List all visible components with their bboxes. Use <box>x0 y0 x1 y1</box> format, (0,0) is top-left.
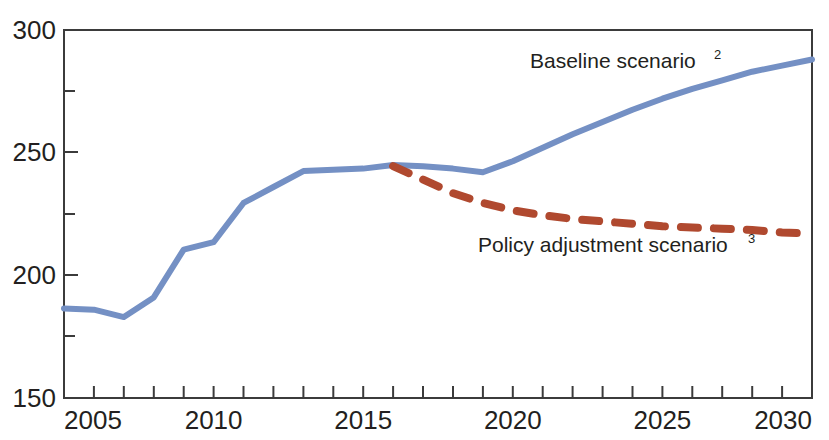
y-tick-label-300: 300 <box>13 15 56 45</box>
annotation-baseline: Baseline scenario 2 <box>530 47 721 72</box>
policy-label-text: Policy adjustment scenario <box>478 233 728 256</box>
baseline-label-text: Baseline scenario <box>530 49 696 72</box>
x-tick-label-2010: 2010 <box>185 405 243 435</box>
x-axis-tick-labels: 2005 2010 2015 2020 2025 2030 <box>64 405 812 435</box>
y-tick-label-150: 150 <box>13 383 56 413</box>
y-tick-label-200: 200 <box>13 260 56 290</box>
chart-container: 300 250 200 150 2005 2010 2015 2020 2025… <box>0 0 829 440</box>
policy-label-superscript: 3 <box>748 231 755 246</box>
x-tick-label-2015: 2015 <box>334 405 392 435</box>
x-tick-label-2030: 2030 <box>754 405 812 435</box>
series-group <box>64 59 812 317</box>
annotation-policy: Policy adjustment scenario 3 <box>478 231 755 256</box>
x-tick-label-2025: 2025 <box>633 405 691 435</box>
x-tick-label-2020: 2020 <box>484 405 542 435</box>
x-axis-ticks <box>64 386 812 398</box>
baseline-label-superscript: 2 <box>714 47 721 62</box>
line-chart-plot: 300 250 200 150 2005 2010 2015 2020 2025… <box>0 0 829 440</box>
y-tick-label-250: 250 <box>13 137 56 167</box>
x-tick-label-2005: 2005 <box>64 405 122 435</box>
series-line-policy <box>393 166 812 233</box>
y-axis-tick-labels: 300 250 200 150 <box>13 15 56 413</box>
y-axis-minor-ticks <box>64 91 75 336</box>
